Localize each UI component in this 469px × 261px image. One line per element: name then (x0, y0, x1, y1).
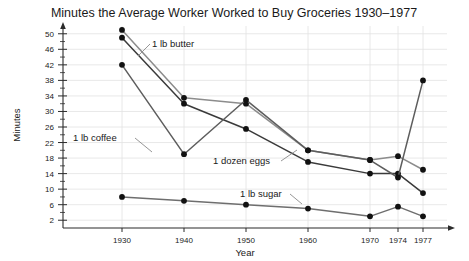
axes (60, 22, 455, 231)
annotation-label: 1 lb coffee (73, 132, 117, 143)
data-point (181, 151, 187, 157)
data-point (181, 198, 187, 204)
data-point (420, 190, 426, 196)
data-point (243, 97, 249, 103)
y-tick-label: 34 (45, 92, 54, 101)
data-point (420, 213, 426, 219)
x-axis-title: Year (235, 247, 254, 258)
x-tick-label: 1930 (113, 236, 131, 245)
y-tick-label: 46 (45, 45, 54, 54)
data-point (367, 213, 373, 219)
series-annotations: 1 lb butter1 lb coffee1 dozen eggs1 lb s… (73, 38, 302, 204)
data-point (181, 101, 187, 107)
y-tick-label: 10 (45, 185, 54, 194)
data-point (243, 126, 249, 132)
y-tick-label: 2 (50, 216, 55, 225)
chart-container: Minutes the Average Worker Worked to Buy… (0, 0, 469, 261)
line-chart: Minutes the Average Worker Worked to Buy… (0, 0, 469, 261)
x-tick-label: 1977 (414, 236, 432, 245)
annotation-leader-line (290, 194, 302, 204)
annotation-label: 1 lb sugar (240, 188, 282, 199)
data-point (305, 147, 311, 153)
y-tick-label: 42 (45, 61, 54, 70)
series-line-1-lb-butter (122, 30, 423, 170)
data-point (243, 202, 249, 208)
x-tick-label: 1970 (361, 236, 379, 245)
y-tick-label: 30 (45, 107, 54, 116)
annotation-leader-line (135, 138, 152, 152)
data-point (181, 95, 187, 101)
series-line-1-lb-sugar (122, 197, 423, 216)
annotation-label: 1 lb butter (152, 38, 194, 49)
annotation-label: 1 dozen eggs (213, 155, 270, 166)
data-point (367, 171, 373, 177)
y-tick-label: 22 (45, 139, 54, 148)
x-axis-arrow (448, 225, 455, 231)
y-axis-arrow (60, 22, 66, 29)
y-tick-label: 50 (45, 30, 54, 39)
data-point (119, 27, 125, 33)
y-tick-label: 26 (45, 123, 54, 132)
data-point (305, 206, 311, 212)
x-tick-label: 1974 (389, 236, 407, 245)
data-point (305, 159, 311, 165)
y-axis-ticks: 261014182226303438424650 (45, 30, 67, 225)
x-axis-ticks: 1930194019501960197019741977 (113, 228, 432, 245)
y-tick-label: 38 (45, 76, 54, 85)
data-point (395, 153, 401, 159)
y-tick-label: 14 (45, 170, 54, 179)
y-tick-label: 6 (50, 201, 55, 210)
data-point (420, 167, 426, 173)
data-point (395, 204, 401, 210)
series-line-1-lb-coffee (122, 65, 423, 178)
data-point (119, 62, 125, 68)
data-point (119, 35, 125, 41)
data-point (119, 194, 125, 200)
series-line-1-dozen-eggs (122, 38, 423, 193)
chart-title: Minutes the Average Worker Worked to Buy… (51, 6, 417, 20)
x-tick-label: 1940 (175, 236, 193, 245)
data-point (367, 157, 373, 163)
x-tick-label: 1960 (299, 236, 317, 245)
data-point (395, 175, 401, 181)
x-tick-label: 1950 (237, 236, 255, 245)
y-axis-title: Minutes (11, 108, 22, 142)
data-point (420, 77, 426, 83)
y-tick-label: 18 (45, 154, 54, 163)
